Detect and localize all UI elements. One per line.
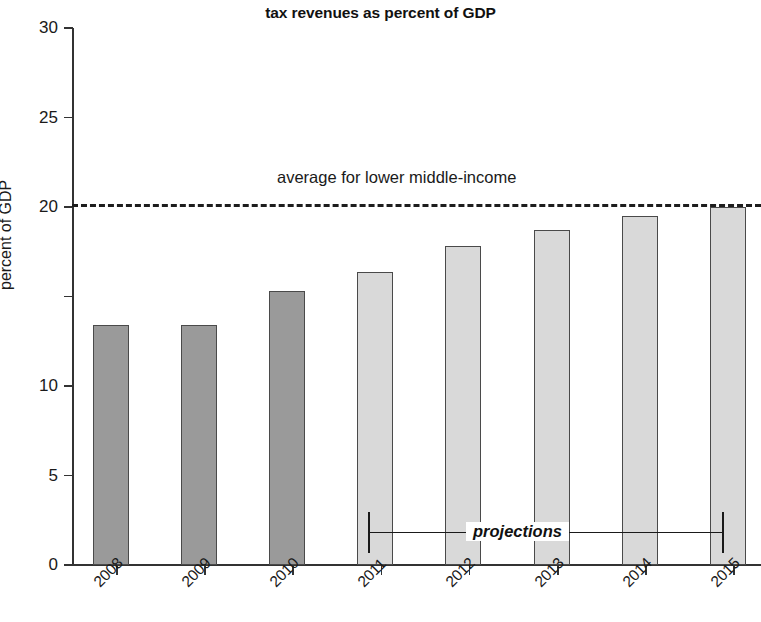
bar-2013 [534, 230, 570, 565]
bar-2012 [445, 246, 481, 565]
tax-revenue-bar-chart: tax revenues as percent of GDP percent o… [0, 0, 761, 622]
projections-label: projections [466, 522, 569, 541]
y-tick-15 [64, 296, 73, 298]
y-tick-25 [64, 117, 73, 119]
y-tick-0 [64, 564, 73, 566]
chart-title: tax revenues as percent of GDP [0, 4, 761, 22]
bar-2008 [93, 325, 129, 565]
bar-2011 [357, 272, 393, 566]
y-tick-label-5: 5 [12, 467, 58, 484]
y-tick-label-10: 10 [12, 377, 58, 394]
y-tick-5 [64, 475, 73, 477]
y-tick-30 [64, 27, 73, 29]
y-tick-10 [64, 385, 73, 387]
y-axis-title: percent of GDP [0, 180, 15, 290]
y-tick-20 [64, 206, 73, 208]
y-tick-label-20: 20 [12, 198, 58, 215]
bar-2009 [181, 325, 217, 565]
bar-2015 [710, 207, 746, 565]
y-tick-label-25: 25 [12, 109, 58, 126]
y-tick-label-30: 30 [12, 19, 58, 36]
y-tick-label-0: 0 [12, 556, 58, 573]
bar-2014 [622, 216, 658, 565]
reference-dashed-line [72, 204, 761, 207]
reference-line-label: average for lower middle-income [277, 168, 516, 187]
bar-2010 [269, 291, 305, 565]
